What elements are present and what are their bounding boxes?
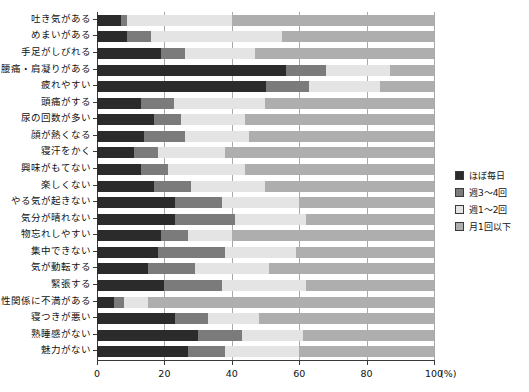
- bar-segment[interactable]: [168, 164, 246, 175]
- bar-segment[interactable]: [141, 98, 175, 109]
- bar-row[interactable]: 寝つきが悪い: [97, 313, 434, 324]
- bar-segment[interactable]: [225, 247, 296, 258]
- bar-row[interactable]: 魅力がない: [97, 346, 434, 357]
- legend-item[interactable]: 週3～4回: [455, 185, 525, 200]
- bar-segment[interactable]: [303, 330, 434, 341]
- legend-item[interactable]: 月1回以下: [455, 219, 525, 234]
- bar-segment[interactable]: [97, 31, 127, 42]
- stacked-bar[interactable]: [97, 247, 434, 258]
- bar-segment[interactable]: [195, 263, 269, 274]
- bar-segment[interactable]: [97, 197, 175, 208]
- bar-segment[interactable]: [97, 280, 164, 291]
- bar-segment[interactable]: [380, 81, 434, 92]
- stacked-bar[interactable]: [97, 65, 434, 76]
- bar-segment[interactable]: [191, 181, 265, 192]
- bar-segment[interactable]: [154, 114, 181, 125]
- bar-segment[interactable]: [265, 181, 434, 192]
- bar-segment[interactable]: [154, 181, 191, 192]
- bar-segment[interactable]: [185, 48, 256, 59]
- bar-segment[interactable]: [97, 164, 141, 175]
- bar-row[interactable]: 気が動転する: [97, 263, 434, 274]
- bar-segment[interactable]: [188, 346, 225, 357]
- bar-segment[interactable]: [97, 65, 286, 76]
- bar-row[interactable]: 尿の回数が多い: [97, 114, 434, 125]
- bar-segment[interactable]: [266, 81, 310, 92]
- bar-row[interactable]: 疲れやすい: [97, 81, 434, 92]
- bar-segment[interactable]: [175, 313, 209, 324]
- bar-segment[interactable]: [97, 48, 161, 59]
- stacked-bar[interactable]: [97, 15, 434, 26]
- stacked-bar[interactable]: [97, 164, 434, 175]
- bar-segment[interactable]: [97, 114, 154, 125]
- bar-row[interactable]: 集中できない: [97, 247, 434, 258]
- bar-segment[interactable]: [121, 15, 128, 26]
- stacked-bar[interactable]: [97, 230, 434, 241]
- bar-segment[interactable]: [299, 346, 434, 357]
- bar-segment[interactable]: [269, 263, 434, 274]
- bar-segment[interactable]: [286, 65, 326, 76]
- stacked-bar[interactable]: [97, 147, 434, 158]
- legend-item[interactable]: 週1～2回: [455, 202, 525, 217]
- bar-segment[interactable]: [97, 330, 198, 341]
- bar-row[interactable]: 顔が熱くなる: [97, 131, 434, 142]
- bar-segment[interactable]: [158, 247, 225, 258]
- stacked-bar[interactable]: [97, 214, 434, 225]
- bar-segment[interactable]: [97, 297, 114, 308]
- bar-segment[interactable]: [148, 263, 195, 274]
- bar-segment[interactable]: [141, 164, 168, 175]
- bar-segment[interactable]: [232, 230, 434, 241]
- stacked-bar[interactable]: [97, 280, 434, 291]
- bar-row[interactable]: 寝汗をかく: [97, 147, 434, 158]
- bar-segment[interactable]: [326, 65, 390, 76]
- bar-segment[interactable]: [124, 297, 148, 308]
- bar-row[interactable]: 物忘れしやすい: [97, 230, 434, 241]
- bar-segment[interactable]: [175, 197, 222, 208]
- bar-segment[interactable]: [225, 346, 299, 357]
- bar-segment[interactable]: [161, 230, 188, 241]
- bar-segment[interactable]: [306, 280, 434, 291]
- bar-segment[interactable]: [97, 15, 121, 26]
- bar-row[interactable]: 楽しくない: [97, 181, 434, 192]
- bar-row[interactable]: 手足がしびれる: [97, 48, 434, 59]
- bar-segment[interactable]: [151, 31, 282, 42]
- bar-row[interactable]: やる気が起きない: [97, 197, 434, 208]
- bar-segment[interactable]: [198, 330, 242, 341]
- stacked-bar[interactable]: [97, 330, 434, 341]
- bar-segment[interactable]: [97, 247, 158, 258]
- bar-row[interactable]: 性関係に不満がある: [97, 297, 434, 308]
- stacked-bar[interactable]: [97, 114, 434, 125]
- bar-segment[interactable]: [127, 15, 231, 26]
- bar-segment[interactable]: [97, 263, 148, 274]
- bar-segment[interactable]: [255, 48, 434, 59]
- bar-row[interactable]: 吐き気がある: [97, 15, 434, 26]
- bar-segment[interactable]: [174, 98, 265, 109]
- bar-row[interactable]: 頭痛がする: [97, 98, 434, 109]
- bar-segment[interactable]: [222, 197, 300, 208]
- bar-segment[interactable]: [148, 297, 434, 308]
- bar-row[interactable]: めまいがある: [97, 31, 434, 42]
- bar-segment[interactable]: [249, 131, 434, 142]
- bar-segment[interactable]: [296, 247, 434, 258]
- bar-segment[interactable]: [161, 48, 185, 59]
- stacked-bar[interactable]: [97, 346, 434, 357]
- bar-segment[interactable]: [245, 114, 434, 125]
- bar-row[interactable]: 緊張する: [97, 280, 434, 291]
- bar-segment[interactable]: [282, 31, 434, 42]
- bar-segment[interactable]: [127, 31, 151, 42]
- bar-segment[interactable]: [97, 181, 154, 192]
- bar-segment[interactable]: [134, 147, 158, 158]
- bar-segment[interactable]: [185, 131, 249, 142]
- bar-segment[interactable]: [158, 147, 225, 158]
- bar-segment[interactable]: [242, 330, 303, 341]
- bar-segment[interactable]: [97, 346, 188, 357]
- bar-segment[interactable]: [175, 214, 236, 225]
- bar-segment[interactable]: [97, 214, 175, 225]
- bar-segment[interactable]: [306, 214, 434, 225]
- stacked-bar[interactable]: [97, 31, 434, 42]
- bar-segment[interactable]: [164, 280, 221, 291]
- bar-segment[interactable]: [235, 214, 306, 225]
- stacked-bar[interactable]: [97, 263, 434, 274]
- bar-row[interactable]: 熟睡感がない: [97, 330, 434, 341]
- legend-item[interactable]: ほぼ毎日: [455, 168, 525, 183]
- bar-segment[interactable]: [188, 230, 232, 241]
